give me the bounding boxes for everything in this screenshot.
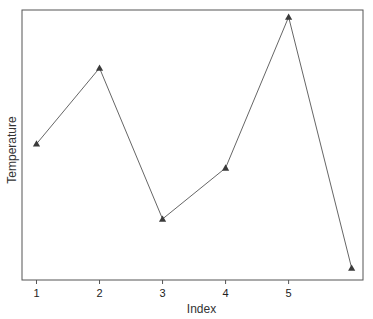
x-tick-label: 3 (159, 287, 165, 299)
x-tick-label: 4 (223, 287, 229, 299)
triangle-marker-icon (348, 265, 355, 271)
line-chart: 12345 Index Temperature (0, 0, 373, 319)
x-tick-label: 5 (286, 287, 292, 299)
x-axis-title: Index (187, 302, 216, 316)
data-line (36, 17, 351, 268)
triangle-marker-icon (222, 164, 229, 170)
x-tick-label: 2 (96, 287, 102, 299)
x-axis: 12345 (33, 280, 291, 299)
data-markers (33, 13, 355, 270)
y-axis-title: Temperature (5, 116, 19, 184)
x-tick-label: 1 (33, 287, 39, 299)
plot-frame (22, 10, 363, 280)
triangle-marker-icon (285, 13, 292, 19)
triangle-marker-icon (96, 64, 103, 70)
